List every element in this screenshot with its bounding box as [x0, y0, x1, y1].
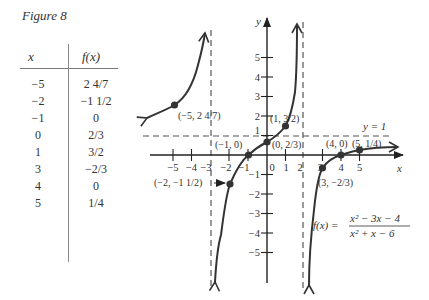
svg-text:−3: −3 [200, 162, 211, 173]
svg-text:−4: −4 [249, 228, 261, 239]
point-minus5 [171, 101, 178, 108]
svg-text:−5: −5 [167, 162, 178, 173]
svg-text:−3: −3 [249, 208, 260, 219]
svg-text:2: 2 [297, 162, 302, 173]
label-point-minus1: (−1, 0) [215, 139, 242, 151]
point-0 [263, 138, 270, 145]
asymptote-label: y = 1 [362, 120, 386, 132]
svg-text:3: 3 [255, 91, 260, 102]
formula: f(x) = x² − 3x − 4 x² + x − 6 [313, 212, 410, 239]
axes [150, 18, 403, 283]
label-point-minus2: (−2, −1 1/2) [154, 177, 202, 189]
label-point-3: (3, −2/3) [318, 177, 353, 189]
svg-text:−4: −4 [186, 162, 198, 173]
label-point-5: (5, 1/4) [352, 138, 381, 150]
formula-denominator: x² + x − 6 [349, 227, 395, 239]
point-4 [337, 151, 344, 158]
x-axis-label: x [396, 162, 402, 174]
point-minus2 [226, 180, 233, 187]
function-graph: −5 −4 −3 −2 −1 0 1 2 3 4 5 5 4 3 2 1 −1 … [0, 0, 429, 300]
svg-text:0: 0 [269, 162, 274, 173]
label-point-1: (1, 3/2) [270, 113, 299, 125]
label-point-minus5: (−5, 2 4/7) [178, 110, 221, 122]
svg-text:4: 4 [338, 162, 344, 173]
point-3 [319, 164, 326, 171]
svg-text:1: 1 [255, 125, 260, 136]
point-minus1 [245, 151, 252, 158]
svg-text:−2: −2 [220, 162, 231, 173]
svg-text:−5: −5 [249, 247, 260, 258]
svg-text:5: 5 [255, 52, 260, 63]
formula-numerator: x² − 3x − 4 [349, 212, 400, 224]
svg-text:2: 2 [255, 111, 260, 122]
svg-text:1: 1 [283, 162, 288, 173]
label-point-4: (4, 0) [326, 138, 348, 150]
formula-lhs: f(x) = [313, 219, 338, 232]
svg-text:5: 5 [357, 162, 362, 173]
y-axis-label: y [255, 15, 261, 27]
svg-text:−2: −2 [249, 189, 260, 200]
label-point-0: (0, 2/3) [272, 139, 301, 151]
x-tick-labels: −5 −4 −3 −2 −1 0 1 2 3 4 5 [167, 162, 362, 173]
point-labels: (−5, 2 4/7) (−2, −1 1/2) (−1, 0) (0, 2/3… [154, 110, 381, 189]
svg-text:4: 4 [255, 72, 261, 83]
svg-text:−1: −1 [249, 169, 260, 180]
